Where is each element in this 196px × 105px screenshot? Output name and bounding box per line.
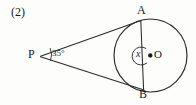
angle-label-35-degrees: 35° [52, 49, 65, 58]
point-label-p: P [28, 48, 35, 60]
point-label-b: B [139, 88, 147, 100]
center-dot-O [148, 53, 152, 57]
chord-AB [141, 21, 144, 90]
item-number-label: (2) [11, 6, 25, 18]
geometry-figure: (2) P 35° A B x O [0, 0, 196, 105]
angle-label-x-unknown: x [136, 49, 140, 59]
point-label-a: A [137, 4, 146, 16]
point-label-o-center: O [154, 49, 162, 60]
tangent-line-PB [41, 57, 145, 90]
